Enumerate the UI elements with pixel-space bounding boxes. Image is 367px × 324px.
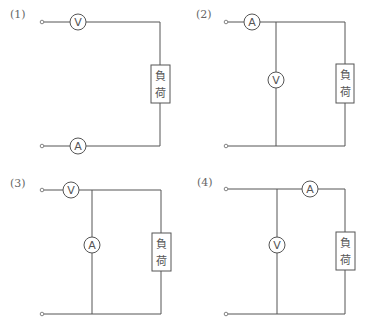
load-label-2: 荷 xyxy=(156,255,167,268)
terminal-icon xyxy=(40,20,44,24)
terminal-icon xyxy=(40,144,44,148)
load-label-2: 荷 xyxy=(340,254,351,267)
circuit-diagrams: (1) 負 荷 V A (2) 負 荷 xyxy=(0,0,367,324)
terminal-icon xyxy=(224,187,228,191)
svg-text:V: V xyxy=(272,74,280,87)
svg-text:V: V xyxy=(273,239,281,252)
circuit-label: (1) xyxy=(10,8,26,21)
svg-text:A: A xyxy=(306,183,314,196)
svg-text:V: V xyxy=(67,184,75,197)
circuit-2: (2) 負 荷 A V xyxy=(196,8,354,148)
load-label-2: 荷 xyxy=(340,86,351,99)
svg-text:A: A xyxy=(248,16,256,29)
load-label-1: 負 xyxy=(155,70,166,83)
circuit-label: (2) xyxy=(196,8,212,21)
load-label-1: 負 xyxy=(340,69,351,82)
circuit-label: (3) xyxy=(10,177,26,190)
svg-text:V: V xyxy=(74,16,82,29)
circuit-3: (3) 負 荷 V A xyxy=(10,177,171,316)
terminal-icon xyxy=(224,20,228,24)
load-label-1: 負 xyxy=(340,237,351,250)
svg-text:A: A xyxy=(88,239,96,252)
circuit-label: (4) xyxy=(197,176,213,189)
circuit-4: (4) 負 荷 A V xyxy=(197,176,355,316)
svg-text:A: A xyxy=(74,140,82,153)
load-label-2: 荷 xyxy=(155,87,166,100)
load-label-1: 負 xyxy=(156,238,167,251)
terminal-icon xyxy=(224,144,228,148)
circuit-1: (1) 負 荷 V A xyxy=(10,8,170,154)
terminal-icon xyxy=(40,312,44,316)
terminal-icon xyxy=(40,188,44,192)
terminal-icon xyxy=(224,312,228,316)
